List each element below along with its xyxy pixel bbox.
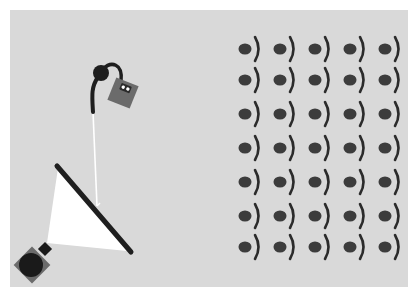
dot bbox=[344, 44, 357, 55]
dot bbox=[239, 177, 252, 188]
scene-svg bbox=[0, 0, 420, 295]
projector-lens bbox=[19, 253, 43, 277]
dot bbox=[274, 242, 287, 253]
dot bbox=[309, 75, 322, 86]
dot bbox=[379, 44, 392, 55]
illustration-canvas bbox=[0, 0, 420, 295]
lamp-head-knot bbox=[93, 65, 109, 81]
dot bbox=[274, 177, 287, 188]
dot bbox=[379, 143, 392, 154]
dot bbox=[239, 44, 252, 55]
dot bbox=[239, 109, 252, 120]
dot bbox=[344, 242, 357, 253]
dot bbox=[309, 109, 322, 120]
dot bbox=[379, 75, 392, 86]
dot bbox=[239, 143, 252, 154]
dot bbox=[274, 143, 287, 154]
dot bbox=[344, 211, 357, 222]
dot bbox=[379, 109, 392, 120]
dot bbox=[344, 109, 357, 120]
dot bbox=[379, 242, 392, 253]
dot bbox=[239, 75, 252, 86]
dot bbox=[239, 242, 252, 253]
dot bbox=[309, 143, 322, 154]
dot bbox=[344, 143, 357, 154]
dot bbox=[379, 177, 392, 188]
dot bbox=[274, 109, 287, 120]
dot bbox=[274, 44, 287, 55]
dot bbox=[309, 242, 322, 253]
dot bbox=[344, 177, 357, 188]
dot bbox=[274, 75, 287, 86]
dot bbox=[274, 211, 287, 222]
dot bbox=[344, 75, 357, 86]
dot bbox=[239, 211, 252, 222]
dot bbox=[309, 177, 322, 188]
dot bbox=[309, 44, 322, 55]
dot bbox=[309, 211, 322, 222]
dot bbox=[379, 211, 392, 222]
